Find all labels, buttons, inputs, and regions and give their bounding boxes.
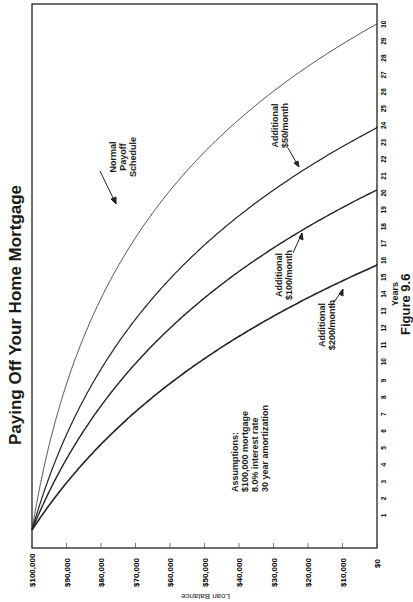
- balance-tick-label: $80,000: [97, 558, 106, 587]
- year-tick-label: 1: [380, 513, 387, 517]
- label-line: Additional: [317, 300, 327, 350]
- year-tick-label: 3: [380, 479, 387, 483]
- label-line: $100/month: [284, 250, 294, 300]
- balance-tick-label: $10,000: [339, 558, 348, 587]
- label-line: Payoff: [118, 137, 128, 177]
- series-line: [32, 24, 377, 530]
- add50-label: Additional $50/month: [270, 103, 290, 148]
- year-tick-label: 28: [380, 54, 387, 62]
- balance-tick-label: $60,000: [166, 558, 175, 587]
- balance-tick-label: $0: [373, 559, 382, 568]
- year-tick-label: 10: [380, 358, 387, 366]
- balance-tick-label: $40,000: [235, 558, 244, 587]
- balance-tick-label: $70,000: [132, 558, 141, 587]
- add200-label: Additional $200/month: [317, 300, 337, 350]
- year-tick-label: 22: [380, 155, 387, 163]
- label-line: $200/month: [327, 300, 337, 350]
- balance-tick-label: $50,000: [201, 558, 210, 587]
- year-tick-label: 11: [380, 341, 387, 348]
- year-tick-label: 24: [380, 122, 387, 130]
- year-tick-label: 19: [380, 206, 387, 214]
- year-tick-label: 21: [380, 172, 387, 180]
- loan-balance-axis-label: Loan Balance: [181, 592, 230, 601]
- year-tick-label: 9: [380, 378, 387, 382]
- label-line: $100,000 mortgage: [240, 405, 250, 492]
- payoff-curves: [32, 24, 377, 530]
- label-line: $50/month: [280, 103, 290, 148]
- year-tick-label: 20: [380, 189, 387, 197]
- assumptions-note: Assumptions: $100,000 mortgage 8.0% inte…: [230, 405, 270, 492]
- balance-tick-label: $30,000: [270, 558, 279, 587]
- chart-title: Paying Off Your Home Mortgage: [6, 185, 26, 445]
- balance-tick-label: $20,000: [304, 558, 313, 587]
- balance-tick-label: $90,000: [63, 558, 72, 587]
- year-tick-label: 14: [380, 290, 387, 298]
- figure-label: Figure 9.6: [398, 274, 413, 335]
- year-tick-label: 26: [380, 88, 387, 96]
- year-tick-label: 25: [380, 105, 387, 113]
- year-tick-label: 15: [380, 273, 387, 281]
- normal-payoff-label: Normal Payoff Schedule: [108, 137, 138, 177]
- year-axis-ticks: 1234567891011121314151617181920212223242…: [380, 20, 387, 517]
- year-tick-label: 13: [380, 307, 387, 315]
- year-tick-label: 27: [380, 71, 387, 79]
- series-line: [32, 190, 377, 530]
- year-tick-label: 8: [380, 395, 387, 399]
- label-line: 30 year amortization: [260, 405, 270, 492]
- year-tick-label: 5: [380, 446, 387, 450]
- label-line: Schedule: [128, 137, 138, 177]
- balance-tick-label: $100,000: [28, 553, 37, 587]
- year-tick-label: 7: [380, 412, 387, 416]
- year-tick-label: 23: [380, 138, 387, 146]
- year-tick-label: 2: [380, 496, 387, 500]
- year-tick-label: 12: [380, 324, 387, 332]
- label-line: Normal: [108, 137, 118, 177]
- add100-label: Additional $100/month: [274, 250, 294, 300]
- label-line: Additional: [270, 103, 280, 148]
- year-tick-label: 29: [380, 37, 387, 45]
- year-tick-label: 16: [380, 256, 387, 264]
- plot-frame: [32, 4, 377, 548]
- year-tick-label: 6: [380, 429, 387, 433]
- year-tick-label: 17: [380, 240, 387, 248]
- label-line: Additional: [274, 250, 284, 300]
- year-tick-label: 30: [380, 20, 387, 28]
- balance-axis-ticks: $100,000$90,000$80,000$70,000$60,000$50,…: [28, 543, 382, 587]
- year-tick-label: 18: [380, 223, 387, 231]
- label-line: 8.0% interest rate: [250, 405, 260, 492]
- year-tick-label: 4: [380, 463, 387, 467]
- label-line: Assumptions:: [230, 405, 240, 492]
- mortgage-payoff-chart: $100,000$90,000$80,000$70,000$60,000$50,…: [0, 0, 413, 602]
